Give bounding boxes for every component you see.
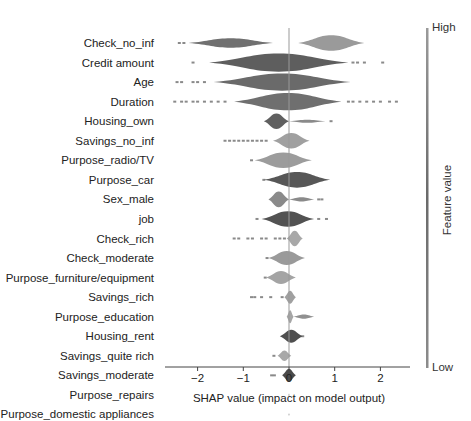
outlier-point (351, 62, 354, 64)
outlier-point (237, 140, 240, 142)
feature-label: job (139, 212, 154, 226)
violin-shape (255, 153, 312, 169)
outlier-point (176, 81, 179, 83)
violin-shape (266, 271, 296, 284)
outlier-point (251, 140, 254, 142)
outlier-point (196, 101, 199, 103)
violin-shape (262, 211, 315, 227)
violin-shape (268, 251, 305, 265)
violin-shape (287, 310, 294, 323)
x-tick-label: 2 (377, 372, 383, 384)
outlier-point (278, 238, 281, 240)
violin-shape (289, 197, 314, 201)
feature-label: Credit amount (82, 56, 154, 70)
outlier-point (265, 238, 268, 240)
outlier-point (256, 140, 259, 142)
feature-label: Duration (111, 95, 154, 109)
outlier-point (351, 101, 354, 103)
feature-label: Housing_rent (86, 329, 154, 343)
outlier-point (173, 101, 176, 103)
outlier-point (365, 101, 368, 103)
outlier-point (260, 238, 263, 240)
violin-shape (214, 74, 351, 91)
outlier-point (320, 198, 323, 200)
outlier-point (246, 140, 249, 142)
outlier-point (260, 140, 263, 142)
outlier-point (178, 42, 181, 44)
outlier-point (224, 140, 227, 142)
outlier-point (228, 140, 231, 142)
outlier-point (270, 374, 273, 376)
feature-label: Purpose_repairs (70, 388, 154, 402)
outlier-point (250, 159, 253, 161)
outlier-point (192, 81, 195, 83)
outlier-point (185, 101, 188, 103)
outlier-point (210, 101, 213, 103)
violin-shape (188, 38, 273, 47)
feature-label: Check_no_inf (84, 36, 154, 50)
x-tick-label: 0 (286, 372, 292, 384)
outlier-point (317, 198, 320, 200)
outlier-point (356, 62, 359, 64)
outlier-point (330, 120, 333, 122)
outlier-point (180, 101, 183, 103)
feature-label: Purpose_radio/TV (61, 153, 154, 167)
violin-shape (289, 120, 326, 123)
outlier-point (325, 218, 328, 220)
outlier-point (246, 238, 249, 240)
outlier-point (381, 62, 384, 64)
feature-label: Purpose_car (89, 173, 154, 187)
colorbar (426, 28, 429, 368)
violin-shape (234, 93, 341, 110)
outlier-point (180, 81, 183, 83)
feature-label: Savings_rich (88, 290, 154, 304)
x-axis-ticks (198, 367, 381, 371)
outlier-point (251, 238, 254, 240)
violin-shape (280, 330, 303, 343)
feature-label: Sex_male (103, 192, 154, 206)
outlier-point (182, 42, 185, 44)
violin-shape (289, 413, 290, 416)
outlier-point (358, 101, 361, 103)
feature-label: Savings_quite rich (60, 349, 154, 363)
feature-label: Savings_moderate (58, 368, 154, 382)
outlier-point (192, 101, 195, 103)
violin-shape (284, 291, 295, 304)
outlier-point (274, 238, 277, 240)
outlier-point (250, 296, 253, 298)
feature-label: Check_moderate (66, 251, 154, 265)
outlier-point (242, 140, 245, 142)
outlier-point (269, 296, 272, 298)
outlier-point (192, 62, 195, 64)
outlier-point (253, 296, 256, 298)
outlier-point (203, 81, 206, 83)
outlier-point (372, 101, 375, 103)
feature-label: Age (134, 75, 154, 89)
violin-shape (209, 53, 348, 71)
colorbar-title: Feature value (441, 165, 453, 235)
outlier-point (273, 374, 276, 376)
outlier-point (260, 296, 263, 298)
outlier-point (237, 238, 240, 240)
outlier-point (283, 238, 286, 240)
feature-label: Purpose_furniture/equipment (6, 271, 154, 285)
outlier-point (196, 81, 199, 83)
outlier-point (272, 355, 275, 357)
outlier-point (233, 140, 236, 142)
violin-shape (298, 35, 364, 51)
outlier-point (224, 101, 227, 103)
outlier-point (363, 62, 366, 64)
violin-shape (268, 192, 289, 208)
outlier-point (395, 101, 398, 103)
outlier-point (217, 101, 220, 103)
outlier-point (256, 218, 259, 220)
x-tick-label: 1 (331, 372, 337, 384)
feature-label: Purpose_education (55, 310, 154, 324)
outlier-point (265, 140, 268, 142)
violin-layer (173, 35, 398, 416)
violin-shape (273, 133, 310, 149)
outlier-point (203, 101, 206, 103)
x-tick-label: −1 (237, 372, 250, 384)
outlier-point (233, 238, 236, 240)
colorbar-high-label: High (432, 21, 456, 33)
